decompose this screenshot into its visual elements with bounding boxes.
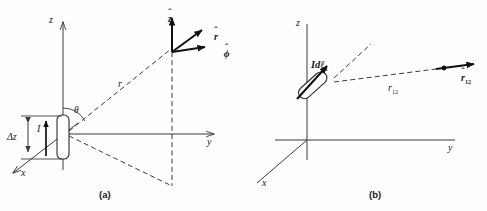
panel-b-separation-subscript: 12 xyxy=(392,88,398,95)
panel-a-graphics xyxy=(13,18,214,186)
panel-b-unit-vector-hat-accent: ˆ xyxy=(461,67,464,77)
panel-b-unit-vector-label: ˆr12 xyxy=(461,73,471,85)
panel-a-unit-z-label: ˆ z xyxy=(168,14,172,24)
panel-b-unit-vector-subscript: 12 xyxy=(465,78,471,85)
panel-b-element-axis-dashed xyxy=(334,44,371,78)
physics-figure: z y x θ r I Δz ˆ z ˆ r ˆ ϕ (a) z y x Idℓ… xyxy=(0,0,487,211)
panel-b-graphics xyxy=(257,24,474,183)
panel-b-separation-line xyxy=(334,68,444,82)
panel-a-caption: (a) xyxy=(99,190,111,200)
panel-a-unit-phi-hat-accent: ˆ xyxy=(225,43,228,53)
panel-a-x-axis-label: x xyxy=(21,168,25,178)
panel-a-radial-line xyxy=(69,49,171,131)
panel-b-x-axis-label: x xyxy=(262,178,266,188)
panel-b-current-element-rod xyxy=(296,69,329,101)
panel-a-unit-z-hat-accent: ˆ xyxy=(168,8,171,18)
panel-a-radial-distance-label: r xyxy=(118,79,122,89)
panel-a-delta-z-label: Δz xyxy=(7,132,17,142)
panel-b-unit-vector-letter-group: ˆr xyxy=(461,73,465,83)
panel-a-current-label: I xyxy=(37,124,40,134)
panel-a-unit-phi-label: ˆ ϕ xyxy=(224,49,230,59)
panel-a-dipole-rod xyxy=(57,115,69,159)
panel-b-separation-label: r12 xyxy=(388,83,398,95)
panel-b-z-axis-label: z xyxy=(296,18,300,28)
panel-b-unit-vector-arrow xyxy=(436,64,474,69)
panel-b-current-element-label: Idℓ1 xyxy=(311,60,328,73)
panel-a-unit-r-label: ˆ r xyxy=(214,32,218,42)
panel-a-ground-projection xyxy=(69,136,172,186)
panel-b-current-element-text: Idℓ xyxy=(311,59,325,70)
panel-b-y-axis-label: y xyxy=(448,143,452,153)
panel-a-theta-label: θ xyxy=(74,106,79,116)
panel-b-current-element-subscript: 1 xyxy=(325,65,328,72)
panel-a-y-axis-label: y xyxy=(207,137,211,147)
panel-a-z-axis-label: z xyxy=(49,15,53,25)
panel-b-caption: (b) xyxy=(369,190,381,200)
panel-a-unit-r-hat-accent: ˆ xyxy=(214,26,217,36)
